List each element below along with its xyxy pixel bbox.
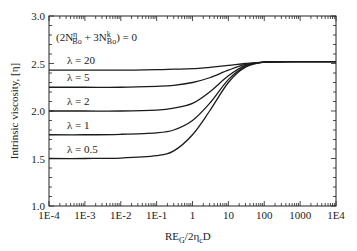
series-label: λ = 20 <box>67 54 96 66</box>
series-label: λ = 2 <box>67 95 90 107</box>
y-tick-label: 1.5 <box>31 153 45 165</box>
x-tick-label: 100 <box>256 209 273 221</box>
series-line <box>49 62 336 135</box>
x-tick-label: 10 <box>223 209 235 221</box>
x-tick-label: 1000 <box>289 209 312 221</box>
chart: λ = 20λ = 5λ = 2λ = 1λ = 0.5 1E-41E-31E-… <box>0 0 357 251</box>
x-tick-label: 1 <box>190 209 196 221</box>
curve-labels: λ = 20λ = 5λ = 2λ = 1λ = 0.5 <box>67 54 98 154</box>
x-tick-label: 1E-3 <box>74 209 96 221</box>
x-tick-label: 1E-2 <box>110 209 131 221</box>
x-tick-label: 1E-1 <box>146 209 167 221</box>
x-tick-label: 1E4 <box>327 209 345 221</box>
x-axis-title: REG/2ηcD <box>165 230 211 245</box>
y-axis-title: Intrinsic viscosity, [η] <box>8 63 20 159</box>
series-label: λ = 5 <box>67 71 90 83</box>
annotation: (2NηBo + 3NkBo) = 0 <box>56 30 138 46</box>
y-tick-label: 3.0 <box>31 10 45 22</box>
y-tick-label: 2.0 <box>31 105 45 117</box>
y-tick-label: 2.5 <box>31 58 45 70</box>
series-label: λ = 0.5 <box>67 143 98 155</box>
series-label: λ = 1 <box>67 119 90 131</box>
y-tick-label: 1.0 <box>31 200 45 212</box>
x-tick-labels: 1E-41E-31E-21E-111010010001E4 <box>38 209 345 221</box>
y-tick-labels: 1.01.52.02.53.0 <box>31 10 45 212</box>
